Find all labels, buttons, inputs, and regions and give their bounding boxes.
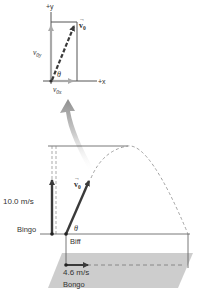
bingo-name-label: Bingo: [17, 225, 36, 234]
inset-origin-dot: [49, 79, 52, 82]
bingo-speed-label: 10.0 m/s: [3, 197, 34, 206]
inset-x-axis-label: +x: [98, 78, 106, 85]
inset-v0-arrow-accent: →: [79, 16, 85, 22]
biff-v0-arrow-accent: →: [74, 175, 80, 181]
inset-y-axis-label: +y: [46, 3, 54, 11]
bingo-dot: [50, 232, 54, 236]
bongo-dot: [64, 263, 68, 267]
main-scene: 10.0 m/s Bingo Biff v0 → θ 4.6 m/s Bongo: [3, 146, 193, 289]
inset-vy-label: v0y: [33, 48, 42, 58]
biff-dot: [64, 232, 68, 236]
projectile-diagram: +y +x v0 → v0y v0x θ: [0, 0, 199, 295]
biff-v0-label: v0: [74, 180, 81, 190]
biff-name-label: Biff: [70, 237, 82, 246]
v0-dashed-arrow: [52, 26, 74, 80]
bongo-speed-label: 4.6 m/s: [63, 268, 89, 277]
zoom-callout-arrow: [60, 99, 94, 172]
biff-trajectory: [91, 146, 188, 234]
biff-angle-label: θ: [74, 224, 78, 233]
inset-angle-label: θ: [57, 70, 61, 79]
inset-vx-label: v0x: [53, 85, 62, 95]
inset-v0-label: v0: [79, 21, 86, 31]
bongo-name-label: Bongo: [63, 280, 85, 289]
velocity-components-inset: +y +x v0 → v0y v0x θ: [33, 3, 106, 95]
